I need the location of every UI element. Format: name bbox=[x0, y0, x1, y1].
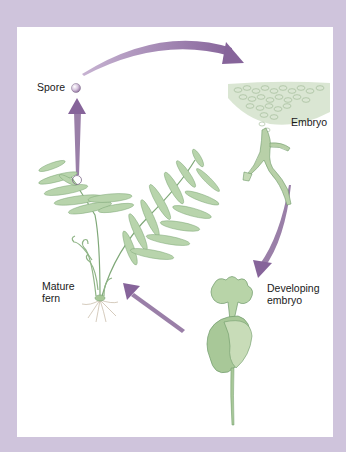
label-mature-fern-line2: fern bbox=[42, 292, 60, 304]
spore-icon bbox=[72, 84, 81, 93]
label-mature-fern-line1: Mature bbox=[42, 280, 75, 292]
life-cycle-illustration bbox=[0, 0, 346, 452]
label-embryo: Embryo bbox=[291, 116, 327, 128]
arrow-developing-to-fern bbox=[123, 283, 185, 333]
arrow-fern-to-spore bbox=[68, 98, 86, 175]
label-spore: Spore bbox=[37, 81, 65, 93]
label-developing-embryo-line2: embryo bbox=[267, 294, 302, 306]
label-developing-embryo-line1: Developing bbox=[267, 282, 320, 294]
embryo-soil-illustration bbox=[228, 82, 330, 205]
arrow-spore-to-embryo bbox=[82, 41, 244, 76]
developing-embryo-illustration bbox=[207, 277, 253, 426]
